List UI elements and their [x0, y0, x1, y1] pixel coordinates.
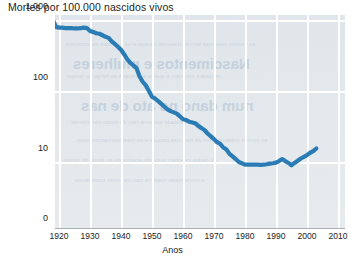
x-tick-label-1920: 1920 — [42, 231, 76, 241]
y-tick-label-1000: 1.000 — [4, 1, 48, 11]
plot-area: as mortes maternas tem as mesmas causas … — [55, 15, 345, 228]
x-tick-label-1930: 1930 — [73, 231, 107, 241]
x-tick-label-1960: 1960 — [166, 231, 200, 241]
y-tick-label-10: 10 — [4, 143, 48, 153]
x-tick-label-1990: 1990 — [259, 231, 293, 241]
x-axis-baseline — [55, 228, 345, 229]
x-tick-label-2000: 2000 — [290, 231, 324, 241]
x-tick-label-1950: 1950 — [135, 231, 169, 241]
y-tick-label-100: 100 — [4, 72, 48, 82]
x-tick-label-1970: 1970 — [197, 231, 231, 241]
x-tick-label-1980: 1980 — [228, 231, 262, 241]
y-tick-label-0: 0 — [4, 213, 48, 223]
x-tick-label-2010: 2010 — [321, 231, 352, 241]
data-series-line — [55, 15, 345, 228]
x-tick-label-1940: 1940 — [104, 231, 138, 241]
x-axis-title: Anos — [0, 245, 345, 255]
